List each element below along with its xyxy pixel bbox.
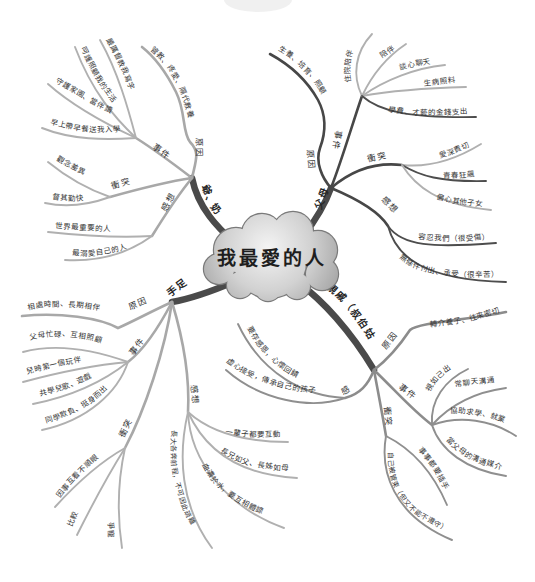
leaf-item-text: 事事都要插手 xyxy=(417,445,452,491)
branch-label-text: 手足 xyxy=(164,276,190,298)
leaf-item-text: 視如己出 xyxy=(424,362,453,393)
sub-label-text: 衝突 xyxy=(110,176,132,191)
sub-branch-line-feelings xyxy=(152,178,192,236)
sub-label-reason: 原因 xyxy=(194,138,205,158)
sub-label-events: 事件 xyxy=(330,130,343,151)
leaf-line xyxy=(183,412,212,548)
leaf-item: 偏心其他子女 xyxy=(436,191,484,208)
leaf-item-text: 談心聊天 xyxy=(398,57,432,72)
leaf-item: 兒時第一個玩伴 xyxy=(25,354,82,376)
sub-label-text: 事件 xyxy=(151,141,173,161)
leaf-item-text: 一輩子都要互動 xyxy=(225,427,281,439)
leaf-item-text: 比較 xyxy=(65,509,80,528)
leaf-line xyxy=(432,369,468,425)
leaf-item: 世界最重要的人 xyxy=(55,220,111,233)
branch-grandparents: 爺、奶 原因 管教、疼愛、隔代教養 事件 嚴厲督教我寫字 呵護照顧我的生活 守護… xyxy=(42,37,235,261)
leaf-item-text: 早上帶早餐送我入學 xyxy=(49,117,121,134)
leaf-item-text: 管教、疼愛、隔代教養 xyxy=(149,44,197,119)
leaf-item-text: 最溺愛自己的人 xyxy=(72,242,128,258)
sub-label-text: 原因 xyxy=(127,295,149,312)
sub-label-conflict: 衝突 xyxy=(366,150,388,164)
leaf-item: 長兄如父、長姊如母 xyxy=(219,446,289,473)
leaf-item: 談心聊天 xyxy=(398,57,432,72)
leaf-item-text: 長兄如父、長姊如母 xyxy=(219,446,289,473)
leaf-item: 爭寵 xyxy=(106,522,117,538)
leaf-item: 管教、疼愛、隔代教養 xyxy=(149,44,197,119)
sub-label-text: 原因 xyxy=(194,138,205,158)
faint-top-shape xyxy=(224,0,292,12)
leaf-line xyxy=(356,34,372,96)
sub-branch-line-conflict xyxy=(331,164,402,188)
branch-siblings: 手足 原因 相處時間、長期相伴 事件 父母忙碌、互相照顧 兒時第一個玩伴 共學兒… xyxy=(22,276,297,548)
leaf-item-text: 世界最重要的人 xyxy=(55,220,111,233)
leaf-item-text: 兒時第一個玩伴 xyxy=(25,354,82,376)
leaf-item-text: 學費、才藝的金錢支出 xyxy=(387,104,467,117)
leaf-item: 血濃於水，要互相體諒 xyxy=(200,461,265,516)
leaf-item: 無條件付出、承受（很辛苦） xyxy=(398,252,499,280)
leaf-item: 容忍我們（很受傷） xyxy=(418,231,490,243)
branch-label: 手足 xyxy=(164,276,190,298)
leaf-item-text: 常聊天溝通 xyxy=(454,374,495,388)
leaf-item-text: 住院陪伴 xyxy=(342,48,355,83)
leaf-item-text: 陪伴 xyxy=(378,42,397,59)
leaf-item-text: 爭寵 xyxy=(106,522,117,538)
leaf-item-text: 相處時間、長期相伴 xyxy=(26,299,101,313)
sub-label-text: 衝突 xyxy=(382,406,394,427)
sub-label-events: 事件 xyxy=(397,382,419,402)
leaf-item: 生病照料 xyxy=(423,75,456,88)
leaf-item-text: 轉介養子、往來密切 xyxy=(429,305,500,329)
leaf-item-text: 容忍我們（很受傷） xyxy=(418,231,490,243)
leaf-item: 比較 xyxy=(65,509,80,528)
leaf-line xyxy=(119,448,125,548)
leaf-item: 嚴厲督教我寫字 xyxy=(104,37,137,92)
sub-branch-line-reason xyxy=(270,54,331,188)
leaf-item-text: 父母忙碌、互相照顧 xyxy=(29,329,104,345)
sub-label-reason: 原因 xyxy=(305,149,317,170)
leaf-item: 視如己出 xyxy=(424,362,453,393)
leaf-item: 陪伴 xyxy=(378,42,397,59)
leaf-item-text: 觀念差異 xyxy=(55,153,87,176)
sub-label-conflict: 衝突 xyxy=(110,176,132,191)
leaf-item-text: 無條件付出、承受（很辛苦） xyxy=(398,252,499,280)
sub-label-text: 感想 xyxy=(380,194,401,215)
sub-label-text: 衝突 xyxy=(366,150,388,164)
sub-label-text: 原因 xyxy=(305,149,317,170)
leaf-item: 最溺愛自己的人 xyxy=(72,242,128,258)
leaf-item: 生養、培育、照顧 xyxy=(277,43,329,96)
leaf-item-text: 當父母的溝通媒介 xyxy=(444,435,502,471)
leaf-line xyxy=(362,87,466,96)
leaf-item: 早上帶早餐送我入學 xyxy=(49,117,121,134)
leaf-item: 一輩子都要互動 xyxy=(225,427,281,439)
sub-branch-line-feelings xyxy=(331,188,388,226)
center-title: 我最愛的人 xyxy=(217,247,327,269)
leaf-item: 轉介養子、往來密切 xyxy=(429,305,500,329)
sub-label-text: 感想 xyxy=(189,385,200,405)
leaf-item-text: 生病照料 xyxy=(423,75,456,88)
leaf-item-text: 嚴厲督教我寫字 xyxy=(104,37,137,92)
sub-label-text: 事件 xyxy=(397,382,419,402)
sub-label-feelings: 感想 xyxy=(189,385,200,405)
sub-label-reason: 原因 xyxy=(127,295,149,312)
leaf-item: 父母忙碌、互相照顧 xyxy=(29,329,104,345)
sub-branch-line-feelings xyxy=(172,302,188,412)
leaf-item-text: 血濃於水，要互相體諒 xyxy=(200,461,265,516)
leaf-item: 相處時間、長期相伴 xyxy=(26,299,101,313)
leaf-item: 青春狂飆 xyxy=(443,169,475,180)
leaf-item: 當父母的溝通媒介 xyxy=(444,435,502,471)
sub-label-conflict: 衝突 xyxy=(382,406,394,427)
leaf-item-text: 共學兒歌、遊戲 xyxy=(39,370,94,398)
leaf-item: 事事都要插手 xyxy=(417,445,452,491)
leaf-item: 因事互看不順眼 xyxy=(54,452,100,499)
leaf-item-text: 督其勤快 xyxy=(52,191,84,203)
leaf-item-text: 偏心其他子女 xyxy=(436,191,484,208)
leaf-item: 住院陪伴 xyxy=(342,48,355,83)
leaf-item: 學費、才藝的金錢支出 xyxy=(387,104,467,117)
leaf-item-text: 生養、培育、照顧 xyxy=(277,43,329,96)
sub-label-feelings: 感想 xyxy=(380,194,401,215)
sub-label-text: 事件 xyxy=(330,130,343,151)
leaf-line xyxy=(48,232,152,237)
leaf-item: 常聊天溝通 xyxy=(454,374,495,388)
leaf-item-text: 因事互看不順眼 xyxy=(54,452,100,499)
leaf-item-text: 青春狂飆 xyxy=(443,169,475,180)
leaf-item: 共學兒歌、遊戲 xyxy=(39,370,94,398)
